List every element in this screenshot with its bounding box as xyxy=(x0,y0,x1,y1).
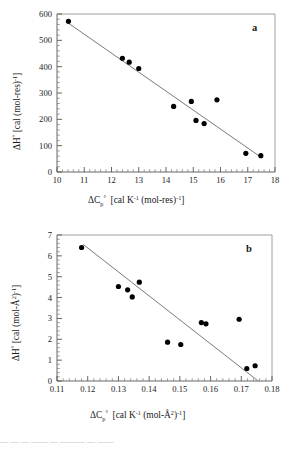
panel-a-regression-line xyxy=(68,23,261,157)
panel-b-regression-line xyxy=(83,244,258,381)
panel-b-svg: 01234567 0.110.120.130.140.150.160.170.1… xyxy=(0,213,300,435)
data-point xyxy=(130,294,135,299)
x-tick-label: 0.14 xyxy=(142,384,158,394)
panel-a-x-axis-title: ΔCp° [cal K-1 (mol-res)-1] xyxy=(88,194,184,207)
panel-a-data-points xyxy=(66,19,264,159)
x-tick-label: 16 xyxy=(216,175,225,185)
y-tick-label: 6 xyxy=(48,251,53,261)
data-point xyxy=(203,321,208,326)
panel-b-x-axis-title: ΔCp° [cal K-1 (mol-Å2)-1] xyxy=(90,409,185,422)
x-tick-label: 0.18 xyxy=(264,384,279,394)
x-tick-label: 11 xyxy=(80,175,88,185)
x-tick-label: 14 xyxy=(162,175,171,185)
x-tick-label: 12 xyxy=(107,175,116,185)
x-tick-label: 18 xyxy=(271,175,280,185)
y-tick-label: 500 xyxy=(39,35,52,45)
data-point xyxy=(116,284,121,289)
x-tick-label: 0.17 xyxy=(234,384,250,394)
y-tick-label: 7 xyxy=(48,230,53,240)
panel-b-y-ticks xyxy=(57,235,62,381)
panel-a-x-tick-labels: 101112131415161718 xyxy=(53,175,280,185)
panel-a-y-tick-labels: 0100200300400500600 xyxy=(39,9,52,177)
data-point xyxy=(202,121,207,126)
data-point xyxy=(125,287,130,292)
y-tick-label: 200 xyxy=(39,114,52,124)
x-tick-label: 0.15 xyxy=(172,384,187,394)
data-point xyxy=(243,151,248,156)
x-tick-label: 17 xyxy=(243,175,252,185)
panel-a-scatter-chart: 0100200300400500600 101112131415161718 a… xyxy=(0,0,300,215)
x-tick-label: 0.16 xyxy=(203,384,219,394)
data-point xyxy=(244,366,249,371)
data-point xyxy=(178,342,183,347)
data-point xyxy=(258,153,263,158)
x-tick-label: 13 xyxy=(134,175,143,185)
data-point xyxy=(137,280,142,285)
data-point xyxy=(66,19,71,24)
y-tick-label: 400 xyxy=(39,62,52,72)
svg-text:ΔCp° [cal K-1 (mol-Å2)-1]: ΔCp° [cal K-1 (mol-Å2)-1] xyxy=(90,409,185,422)
data-point xyxy=(171,104,176,109)
panel-a-tag: a xyxy=(252,22,258,33)
x-tick-label: 0.11 xyxy=(50,384,65,394)
y-tick-label: 100 xyxy=(39,141,52,151)
x-tick-label: 0.13 xyxy=(111,384,126,394)
panel-b-x-tick-labels: 0.110.120.130.140.150.160.170.18 xyxy=(50,384,280,394)
data-point xyxy=(199,320,204,325)
svg-text:ΔH° [cal (mol-Å2)-1]: ΔH° [cal (mol-Å2)-1] xyxy=(10,285,22,361)
y-tick-label: 4 xyxy=(48,293,53,303)
panel-b-x-ticks xyxy=(57,376,272,381)
y-tick-label: 300 xyxy=(39,88,52,98)
data-point xyxy=(189,99,194,104)
svg-text:ΔH° [cal (mol-res)-1]: ΔH° [cal (mol-res)-1] xyxy=(11,73,23,150)
x-tick-label: 0.12 xyxy=(80,384,95,394)
data-point xyxy=(253,363,258,368)
data-point xyxy=(79,245,84,250)
y-tick-label: 2 xyxy=(48,334,52,344)
panel-b-tag: b xyxy=(246,243,252,254)
data-point xyxy=(127,60,132,65)
y-tick-label: 0 xyxy=(48,167,52,177)
x-tick-label: 15 xyxy=(189,175,198,185)
data-point xyxy=(193,118,198,123)
data-point xyxy=(120,56,125,61)
panel-a-y-ticks xyxy=(57,14,62,172)
panel-b-data-points xyxy=(79,245,258,371)
data-point xyxy=(214,97,219,102)
y-tick-label: 600 xyxy=(39,9,52,19)
y-tick-label: 3 xyxy=(48,313,52,323)
panel-a-y-axis-title: ΔH° [cal (mol-res)-1] xyxy=(11,73,23,150)
data-point xyxy=(136,66,141,71)
y-tick-label: 1 xyxy=(48,355,52,365)
panel-a-svg: 0100200300400500600 101112131415161718 a… xyxy=(0,0,300,215)
y-tick-label: 5 xyxy=(48,272,52,282)
data-point xyxy=(237,317,242,322)
svg-text:ΔCp° [cal K-1 (mol-res)-1]: ΔCp° [cal K-1 (mol-res)-1] xyxy=(88,194,184,207)
panel-b-y-tick-labels: 01234567 xyxy=(48,230,53,386)
panel-b-y-axis-title: ΔH° [cal (mol-Å2)-1] xyxy=(10,285,22,361)
caption-fragment: — — — —— — ——— — —— xyxy=(0,437,300,450)
data-point xyxy=(165,340,170,345)
panel-b-scatter-chart: 01234567 0.110.120.130.140.150.160.170.1… xyxy=(0,213,300,435)
figure-container: 0100200300400500600 101112131415161718 a… xyxy=(0,0,300,450)
panel-a-x-ticks xyxy=(57,167,275,172)
x-tick-label: 10 xyxy=(53,175,62,185)
